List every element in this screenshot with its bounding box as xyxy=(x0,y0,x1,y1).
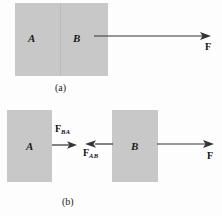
applied-force-label: F xyxy=(205,42,211,52)
block-b-letter: B xyxy=(73,33,80,44)
force-ab-label: FAB xyxy=(83,148,98,158)
applied-force-label: F xyxy=(207,151,213,161)
caption-b: (b) xyxy=(62,197,74,207)
block-a-letter: A xyxy=(28,33,35,44)
physics-figure: A B F (a) A B FBA FAB F xyxy=(0,0,222,216)
block-divider xyxy=(60,3,61,76)
applied-force-arrow xyxy=(93,27,211,45)
panel-b: A B FBA FAB F (b) xyxy=(0,100,222,216)
force-ba-arrow xyxy=(52,138,77,152)
applied-force-arrow xyxy=(157,136,214,152)
force-ba-subscript: BA xyxy=(61,128,70,135)
panel-a: A B F (a) xyxy=(0,0,222,100)
block-a-letter: A xyxy=(26,141,33,152)
force-ab-subscript: AB xyxy=(89,152,98,159)
caption-a: (a) xyxy=(55,83,66,93)
block-b-letter: B xyxy=(131,141,138,152)
force-ba-label: FBA xyxy=(55,124,70,134)
